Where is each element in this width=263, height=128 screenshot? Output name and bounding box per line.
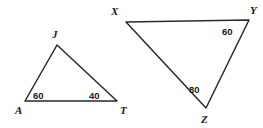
geometry-svg: J A T 60 40 X Y Z 60 80 (0, 0, 263, 128)
geometry-diagram-canvas: J A T 60 40 X Y Z 60 80 (0, 0, 263, 128)
angle-label-t-40: 40 (89, 90, 100, 101)
angle-label-y-60: 60 (222, 26, 233, 37)
triangle-xyz: X Y Z 60 80 (110, 4, 258, 125)
vertex-label-a: A (14, 104, 22, 116)
vertex-label-t: T (120, 104, 128, 116)
vertex-label-y: Y (250, 4, 258, 16)
vertex-label-z: Z (200, 113, 208, 125)
angle-label-a-60: 60 (33, 90, 44, 101)
angle-label-z-80: 80 (189, 84, 200, 95)
vertex-label-j: J (51, 28, 58, 40)
triangle-jat: J A T 60 40 (14, 28, 128, 116)
vertex-label-x: X (110, 5, 119, 17)
